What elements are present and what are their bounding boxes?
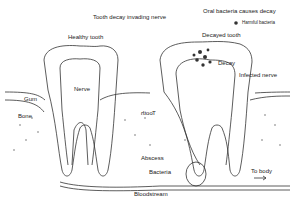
label-nerve: Nerve bbox=[74, 86, 90, 92]
label-gum: Gum bbox=[24, 96, 37, 102]
label-abscess: Abscess bbox=[141, 155, 164, 161]
label-healthy-tooth: Healthy tooth bbox=[68, 34, 103, 40]
tooth-diagram-drawing bbox=[0, 0, 292, 203]
title-oral-bacteria: Oral bacteria causes decay bbox=[203, 8, 276, 14]
label-bacteria: Bacteria bbox=[149, 169, 171, 175]
label-infected-nerve: Infected nerve bbox=[239, 72, 277, 78]
label-decayed-tooth: Decayed tooth bbox=[202, 32, 241, 38]
label-bloodstream: Bloodstream bbox=[134, 191, 168, 197]
title-tooth-decay: Tooth decay invading nerve bbox=[93, 14, 166, 20]
label-to-body: To body bbox=[251, 168, 272, 174]
label-tooth-mirrored: Tooth bbox=[141, 110, 156, 116]
legend-harmful-bacteria: Harmful bacteria bbox=[242, 21, 275, 26]
label-decay: Decay bbox=[218, 60, 235, 66]
label-bone: Bone bbox=[18, 113, 32, 119]
